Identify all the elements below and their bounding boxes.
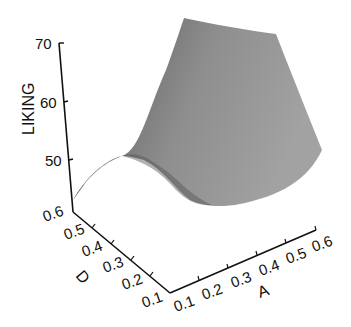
z-axis-line — [59, 43, 73, 212]
d-axis-title: D — [73, 267, 93, 287]
a-tick-label-0.2: 0.2 — [199, 280, 224, 303]
a-tick-label-0.3: 0.3 — [228, 268, 253, 291]
plot-canvas: 70 60 50 LIKING 0.6 0.5 0.4 0.3 0.2 0.1 … — [0, 0, 351, 327]
a-tick-0.2 — [198, 276, 199, 280]
z-tick-label-60: 60 — [40, 94, 57, 111]
d-tick-label-0.3: 0.3 — [100, 253, 125, 276]
a-tick-0.3 — [227, 264, 228, 268]
d-tick-label-0.4: 0.4 — [79, 237, 104, 260]
d-tick-0.4 — [111, 240, 114, 244]
a-axis-title: A — [255, 281, 271, 301]
d-tick-0.5 — [92, 224, 95, 228]
d-tick-label-0.2: 0.2 — [119, 270, 144, 293]
a-tick-0.5 — [285, 239, 286, 243]
z-tick-50 — [69, 159, 73, 160]
surface-plot: 70 60 50 LIKING 0.6 0.5 0.4 0.3 0.2 0.1 … — [0, 0, 351, 327]
z-tick-label-50: 50 — [45, 152, 62, 169]
d-tick-label-0.1: 0.1 — [139, 288, 164, 311]
surface-mesh — [73, 18, 322, 206]
d-tick-label-0.5: 0.5 — [61, 220, 86, 243]
a-tick-label-0.5: 0.5 — [283, 244, 308, 267]
z-tick-60 — [64, 101, 68, 102]
a-tick-label-0.1: 0.1 — [171, 292, 196, 315]
a-tick-label-0.6: 0.6 — [309, 232, 334, 255]
z-tick-label-70: 70 — [35, 35, 52, 52]
d-tick-label-0.6: 0.6 — [40, 202, 65, 225]
a-tick-label-0.4: 0.4 — [256, 256, 281, 279]
z-axis-title: LIKING — [20, 83, 37, 135]
a-axis-end-tick — [315, 226, 316, 230]
a-tick-0.4 — [256, 251, 257, 255]
d-tick-0.3 — [131, 256, 134, 260]
surface-underside — [73, 156, 122, 200]
d-tick-0.2 — [150, 272, 153, 276]
